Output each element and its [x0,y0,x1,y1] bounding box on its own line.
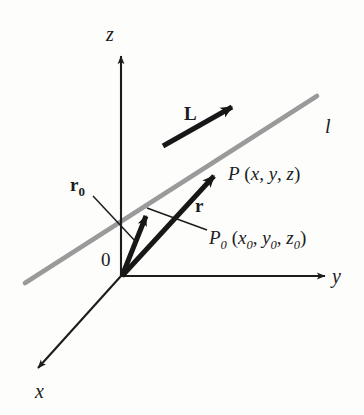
x-axis-label: x [35,381,44,401]
position-vector-r-label: r [195,196,203,215]
line-l-label: l [325,116,331,136]
diagram-canvas [0,0,364,415]
P0-sep-1: , [253,227,263,248]
P0-paren-open: ( [227,227,238,248]
P-sep-2: , [277,163,287,184]
P-paren-close: ) [294,163,300,184]
P0-coord-y: y [262,227,270,248]
origin-label: 0 [101,250,111,269]
P-paren-open: ( [240,163,251,184]
P-coord-z: z [287,163,294,184]
y-axis-label: y [332,266,341,286]
r0-subscript: 0 [78,184,84,199]
point-P-label: P (x, y, z) [228,164,300,183]
direction-vector-L-graphic [163,107,232,146]
line-in-space-diagram: z y x 0 L r r0 P (x, y, z) P0 (x0, y0, z… [0,0,364,415]
direction-vector-label: L [184,104,197,123]
P0-paren-close: ) [300,227,306,248]
P-coord-y: y [269,163,277,184]
point-P0-label: P0 (x0, y0, z0) [209,228,306,251]
P-sep-1: , [259,163,269,184]
position-vector-r0-label: r0 [70,175,85,199]
P0-base: P [209,227,221,248]
line-l-graphic [25,96,317,283]
P0-coord-z: z [286,227,293,248]
position-vector-r0-graphic [122,216,146,276]
x-axis-graphic [38,276,121,368]
P-base: P [228,163,240,184]
z-axis-label: z [106,24,114,44]
P-coord-x: x [251,163,259,184]
P0-sep-2: , [277,227,287,248]
